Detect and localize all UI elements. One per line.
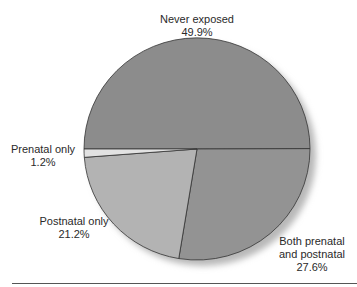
label-text: Postnatal only [36,215,112,228]
label-text: and postnatal [276,248,348,261]
label-text: Prenatal only [8,143,78,156]
bottom-rule [12,283,357,284]
pie-slice-never-exposed [84,38,310,149]
label-prenatal-only: Prenatal only 1.2% [8,143,78,169]
label-text: Never exposed [150,13,244,26]
label-both: Both prenatal and postnatal 27.6% [276,235,348,274]
label-value: 21.2% [36,228,112,241]
label-postnatal-only: Postnatal only 21.2% [36,215,112,241]
label-value: 49.9% [150,26,244,39]
label-text: Both prenatal [276,235,348,248]
label-value: 27.6% [276,261,348,274]
label-value: 1.2% [8,156,78,169]
pie-slice-postnatal-only [84,149,197,259]
label-never-exposed: Never exposed 49.9% [150,13,244,39]
